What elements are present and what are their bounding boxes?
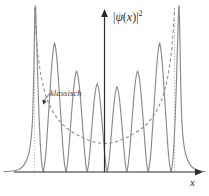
y-axis-label: |ψ(x)|2 [113, 10, 143, 23]
klassisch-annotation-label: klassisch [50, 88, 82, 98]
plot-canvas [0, 0, 209, 196]
y-axis-arrowhead [101, 9, 108, 17]
y-axis-label-exponent: 2 [139, 9, 143, 18]
x-axis-arrowhead [195, 169, 203, 176]
quantum-oscillator-figure: |ψ(x)|2 x klassisch [0, 0, 209, 196]
x-axis-label: x [190, 177, 195, 188]
y-axis-label-psi: ψ [115, 10, 122, 24]
